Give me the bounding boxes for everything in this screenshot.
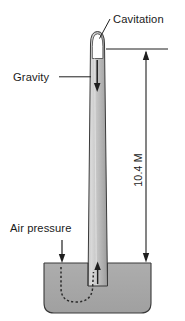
annotation-cavitation: Cavitation [100, 13, 164, 39]
air-pressure-arrow-head [59, 254, 65, 263]
height-dimension: 10.4 M [106, 49, 168, 263]
air-pressure-label: Air pressure [10, 222, 72, 234]
annotation-gravity: Gravity [13, 71, 91, 83]
height-dimension-label: 10.4 M [132, 153, 144, 187]
annotation-air-pressure: Air pressure [10, 222, 72, 263]
diagram-canvas: Cavitation Gravity Air pressure 10.4 M [0, 0, 185, 321]
cavitation-label: Cavitation [113, 13, 164, 25]
cavitation-leader-line-icon [100, 19, 111, 39]
dimension-arrow-top-icon [143, 51, 149, 61]
dimension-arrow-bottom-icon [143, 253, 149, 263]
barometer-diagram: Cavitation Gravity Air pressure 10.4 M [0, 0, 185, 321]
gravity-label: Gravity [13, 71, 49, 83]
cavitation-void [92, 34, 103, 59]
